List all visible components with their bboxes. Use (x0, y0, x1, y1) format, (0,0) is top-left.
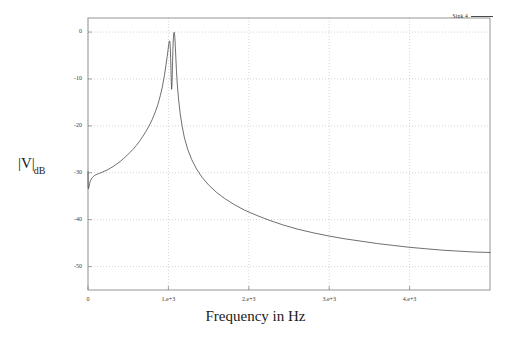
x-tick-label: 4.e+3 (390, 296, 430, 302)
x-tick-label: 1.e+3 (148, 296, 188, 302)
y-axis-title: |V|dB (18, 155, 47, 174)
legend-label-sink4: Sink 4 (453, 14, 468, 20)
y-tick-label: -10 (60, 75, 82, 81)
x-tick-label: 2.e+3 (229, 296, 269, 302)
y-tick-label: 0 (60, 28, 82, 34)
legend: Sink 4 (453, 14, 493, 20)
x-tick-label: 0 (68, 296, 108, 302)
y-axis-title-main: |V| (18, 155, 35, 171)
legend-line-swatch (471, 16, 493, 17)
y-tick-label: -30 (60, 169, 82, 175)
y-tick-label: -40 (60, 216, 82, 222)
chart-page: |V|dB Frequency in Hz Sink 4 0-10-20-30-… (0, 0, 511, 339)
y-axis-title-subscript: dB (34, 165, 46, 176)
x-axis-title: Frequency in Hz (0, 308, 511, 325)
x-tick-label: 3.e+3 (309, 296, 349, 302)
y-tick-label: -50 (60, 263, 82, 269)
y-tick-label: -20 (60, 122, 82, 128)
